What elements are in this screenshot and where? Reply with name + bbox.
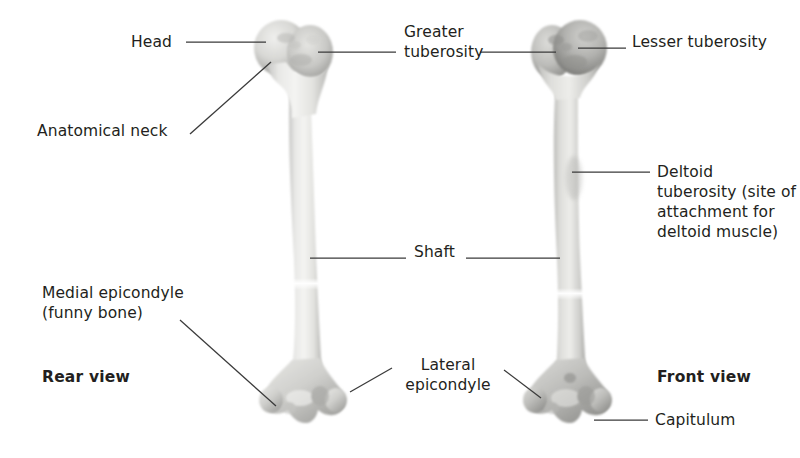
label-head: Head <box>131 32 172 52</box>
leader-lateral-epicondyle-left <box>350 368 392 392</box>
label-lateral-epicondyle: Lateral epicondyle <box>398 355 498 395</box>
label-shaft: Shaft <box>414 242 455 262</box>
label-deltoid-tuberosity: Deltoid tuberosity (site of attachment f… <box>657 162 797 242</box>
leader-medial-epicondyle <box>180 320 276 406</box>
caption-front-view: Front view <box>657 367 751 387</box>
label-anatomical-neck: Anatomical neck <box>37 121 168 141</box>
bone-rear-shaft-break <box>286 278 322 290</box>
label-capitulum: Capitulum <box>655 410 736 430</box>
label-medial-epicondyle: Medial epicondyle (funny bone) <box>42 283 212 323</box>
bone-rear-shaft <box>289 78 322 372</box>
leader-anatomical-neck <box>190 62 271 134</box>
caption-rear-view: Rear view <box>42 367 130 387</box>
bone-front-shaft <box>554 80 586 372</box>
bone-front-shaft-break <box>550 288 588 300</box>
bone-rear-medial-epicondyle <box>259 387 283 413</box>
label-lesser-tuberosity: Lesser tuberosity <box>632 32 767 52</box>
bone-front-deltoid-tuberosity <box>566 156 582 200</box>
anatomy-figure: Head Anatomical neck Greater tuberosity … <box>0 0 800 458</box>
bone-front-lateral-epicondyle <box>523 387 547 413</box>
bone-rear-lateral-epicondyle <box>325 388 347 412</box>
bone-front-view <box>523 20 612 423</box>
label-greater-tuberosity: Greater tuberosity <box>404 22 508 62</box>
bone-rear-view <box>254 20 347 423</box>
